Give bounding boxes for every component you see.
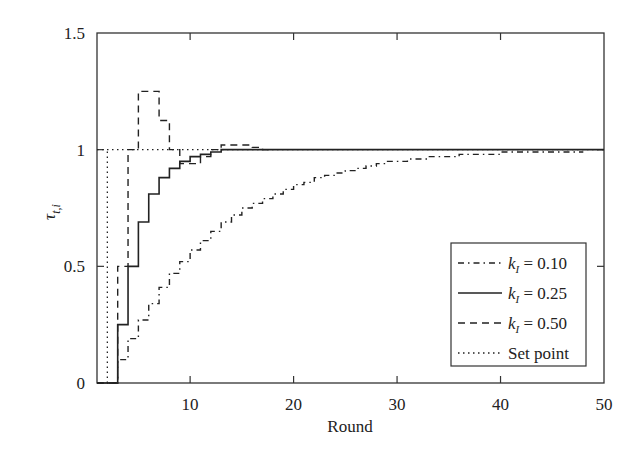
y-tick-label: 0 <box>77 374 86 393</box>
y-axis-label-sub: t,i <box>49 204 63 214</box>
y-axis-label: τt,i <box>40 204 63 220</box>
y-tick-label: 1.5 <box>64 24 85 43</box>
x-tick-label: 40 <box>492 395 509 414</box>
x-tick-label: 50 <box>596 395 613 414</box>
y-tick-label: 0.5 <box>64 257 85 276</box>
series-dashed-line <box>97 91 273 383</box>
x-tick-label: 20 <box>285 395 302 414</box>
x-axis-label: Round <box>327 417 373 436</box>
svg-text:τt,i: τt,i <box>40 204 63 220</box>
chart: 102030405000.511.5 Round τt,i kI = 0.10k… <box>0 0 642 458</box>
x-tick-label: 30 <box>389 395 406 414</box>
y-tick-label: 1 <box>77 141 86 160</box>
legend: kI = 0.10kI = 0.25kI = 0.50Set point <box>451 243 586 366</box>
x-tick-label: 10 <box>182 395 199 414</box>
legend-label: Set point <box>508 344 569 363</box>
